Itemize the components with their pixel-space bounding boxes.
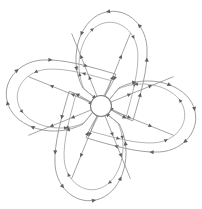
four-petal-heart-diagram: Four-petal heart flow diagram Four heart… [0,0,202,209]
center-hub [91,96,112,117]
figure-canvas: Four-petal heart flow diagram Four heart… [0,0,202,209]
